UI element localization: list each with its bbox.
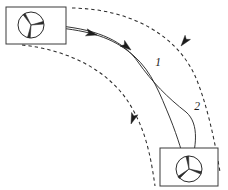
arrow-trajectory-mid-icon — [120, 40, 133, 52]
arrow-outer-lane-icon — [178, 35, 190, 48]
trajectory-curve-1 — [60, 28, 186, 168]
trajectory-label-2: 2 — [194, 100, 200, 112]
arrow-inner-lane-icon — [128, 113, 138, 126]
scene-svg: 1 2 — [0, 0, 228, 190]
top-left-vehicle[interactable] — [6, 7, 66, 44]
trajectory-diagram-canvas: 1 2 — [0, 0, 228, 190]
bottom-right-vehicle[interactable] — [160, 148, 218, 186]
trajectory-label-1: 1 — [155, 56, 161, 68]
direction-arrow-group — [85, 29, 190, 125]
